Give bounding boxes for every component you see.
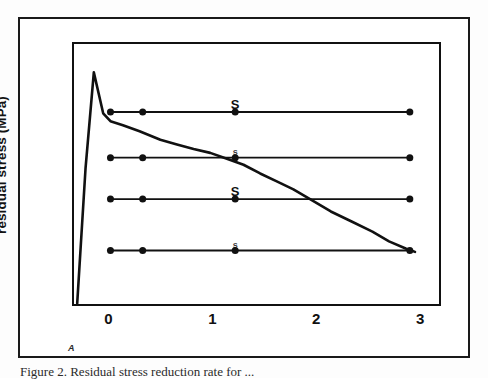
data-point-marker: [107, 247, 114, 254]
y-axis-label: residual stress (MPa): [0, 60, 9, 270]
series-annotation: S: [231, 98, 240, 111]
data-point-marker: [406, 154, 413, 161]
figure-caption: Figure 2. Residual stress reduction rate…: [20, 364, 472, 380]
chart-plot-area: [18, 17, 470, 358]
data-point-marker: [107, 196, 114, 203]
x-tick-label: 0: [104, 310, 112, 327]
scan-artifact-mark: A: [68, 343, 75, 353]
data-point-marker: [406, 196, 413, 203]
x-tick-label: 3: [416, 310, 424, 327]
series-group: [77, 72, 415, 303]
x-tick-label: 2: [312, 310, 320, 327]
data-point-marker: [139, 196, 146, 203]
series-annotation: s: [233, 148, 238, 157]
x-axis-tick-labels: 0123: [0, 310, 488, 334]
data-point-marker: [406, 247, 413, 254]
series-annotation: s: [233, 241, 238, 250]
data-point-marker: [107, 108, 114, 115]
data-point-marker: [139, 247, 146, 254]
data-point-marker: [139, 108, 146, 115]
series-line-decay-curve: [77, 72, 415, 303]
x-tick-label: 1: [208, 310, 216, 327]
data-point-marker: [139, 154, 146, 161]
data-point-marker: [107, 154, 114, 161]
data-point-marker: [406, 108, 413, 115]
series-annotation: S: [231, 185, 240, 198]
